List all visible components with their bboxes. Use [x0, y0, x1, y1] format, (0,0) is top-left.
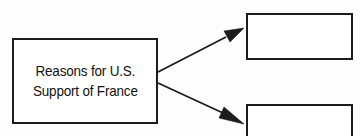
cause-box-label: Reasons for U.S. Support of France	[33, 61, 138, 101]
arrow-to-bottom-box	[158, 83, 244, 124]
graphic-organizer-diagram: Reasons for U.S. Support of France	[0, 0, 361, 136]
cause-box: Reasons for U.S. Support of France	[12, 38, 158, 124]
effect-box-top[interactable]	[246, 13, 353, 60]
arrow-to-top-box	[158, 28, 244, 72]
effect-box-bottom[interactable]	[246, 104, 353, 136]
